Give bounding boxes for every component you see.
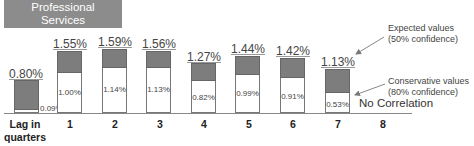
annotation-arrows (0, 0, 474, 146)
conservative-arrow-icon (355, 84, 385, 95)
expected-arrow-icon (356, 37, 384, 54)
